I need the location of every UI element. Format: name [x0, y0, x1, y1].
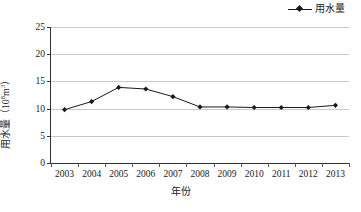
x-axis-tick	[105, 163, 106, 167]
x-axis-tick-label: 2008	[191, 169, 210, 180]
y-axis-tick-label: 10	[36, 104, 46, 114]
data-series	[51, 27, 349, 163]
x-axis-tick-label: 2004	[82, 169, 101, 180]
x-axis-tick-label: 2013	[326, 169, 345, 180]
data-point-marker	[89, 99, 94, 104]
data-point-marker	[224, 104, 229, 109]
legend-line-marker-icon	[288, 4, 312, 14]
chart-page: 用水量 0510152025 2003200420052006200720082…	[0, 0, 361, 212]
x-axis-tick-label: 2005	[109, 169, 128, 180]
x-axis-tick	[268, 163, 269, 167]
x-axis-tick	[51, 163, 52, 167]
x-axis-tick	[78, 163, 79, 167]
x-axis-tick	[295, 163, 296, 167]
chart-legend: 用水量	[288, 2, 345, 16]
plot-area: 0510152025 20032004200520062007200820092…	[50, 27, 349, 164]
x-axis-tick	[186, 163, 187, 167]
x-axis-tick-label: 2003	[55, 169, 74, 180]
x-axis-tick-label: 2009	[218, 169, 237, 180]
x-axis-tick	[322, 163, 323, 167]
x-axis-tick	[241, 163, 242, 167]
x-axis-tick-label: 2007	[163, 169, 182, 180]
legend-label: 用水量	[315, 3, 345, 15]
y-axis-tick-label: 0	[40, 158, 45, 168]
y-axis-title-text: 用水量	[0, 119, 11, 149]
x-axis-tick-label: 2006	[136, 169, 155, 180]
data-point-marker	[62, 107, 67, 112]
x-axis-tick	[349, 163, 350, 167]
x-axis-tick	[132, 163, 133, 167]
x-axis-tick	[214, 163, 215, 167]
data-point-marker	[252, 105, 257, 110]
x-axis-title: 年份	[0, 186, 361, 198]
data-point-marker	[116, 85, 121, 90]
x-axis-tick	[159, 163, 160, 167]
y-axis-tick-label: 15	[36, 76, 46, 86]
y-axis-unit: （108m3）	[0, 75, 11, 119]
data-point-marker	[143, 86, 148, 91]
data-point-marker	[333, 103, 338, 108]
y-axis-title: 用水量（108m3）	[0, 52, 12, 172]
data-point-marker	[197, 104, 202, 109]
x-axis-tick-label: 2012	[299, 169, 318, 180]
y-axis-tick-label: 5	[40, 131, 45, 141]
x-axis-tick-label: 2011	[272, 169, 291, 180]
data-point-marker	[306, 105, 311, 110]
y-axis-tick-label: 25	[36, 22, 46, 32]
data-point-marker	[279, 105, 284, 110]
x-axis-tick-label: 2010	[245, 169, 264, 180]
y-axis-tick-label: 20	[36, 49, 46, 59]
data-point-marker	[170, 94, 175, 99]
